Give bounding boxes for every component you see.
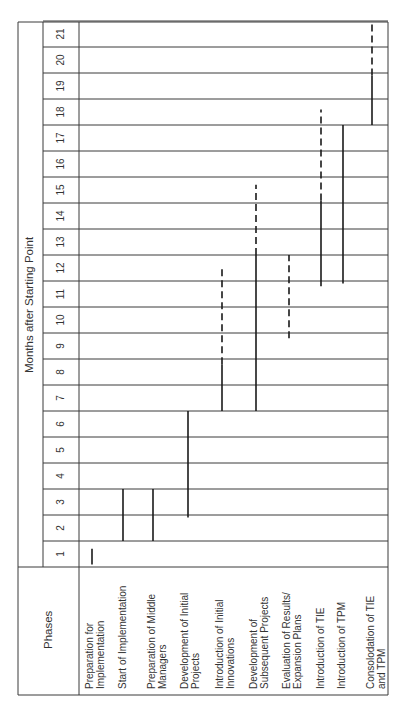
month-label: 20 — [55, 47, 66, 73]
month-label: 15 — [55, 177, 66, 203]
phase-label: Consolodation of TIE and TPM — [366, 596, 387, 689]
phase-label: Preparation of Middle Managers — [147, 594, 168, 689]
phase-label: Evaluation of Results/ Expansion Plans — [282, 592, 303, 689]
month-label: 17 — [55, 125, 66, 151]
month-label: 7 — [55, 385, 66, 411]
month-label: 2 — [55, 515, 66, 541]
month-label: 16 — [55, 151, 66, 177]
phase-label: Introduction of Initial Innovations — [215, 600, 236, 690]
month-label: 9 — [55, 333, 66, 359]
month-label: 18 — [55, 99, 66, 125]
gantt-chart: Months after Starting Point Phases 12345… — [0, 0, 406, 710]
month-label: 6 — [55, 411, 66, 437]
phase-label: Preparation for Implementation — [85, 621, 106, 689]
phase-label: Introduction of TIE — [316, 607, 327, 689]
month-label: 13 — [55, 229, 66, 255]
month-label: 5 — [55, 437, 66, 463]
month-label: 8 — [55, 359, 66, 385]
month-label: 21 — [55, 21, 66, 47]
month-label: 3 — [55, 489, 66, 515]
phases-column-header: Phases — [42, 611, 54, 649]
phase-label: Development of Initial Projects — [180, 593, 201, 689]
phase-label: Start of Implementation — [118, 586, 129, 689]
month-label: 19 — [55, 73, 66, 99]
month-label: 11 — [55, 281, 66, 307]
phase-label: Introduction of TPM — [337, 602, 348, 689]
month-label: 10 — [55, 307, 66, 333]
month-label: 14 — [55, 203, 66, 229]
month-label: 12 — [55, 255, 66, 281]
months-axis-title: Months after Starting Point — [23, 236, 35, 372]
month-label: 4 — [55, 463, 66, 489]
month-label: 1 — [55, 541, 66, 567]
phase-label: Development of Subsequent Projects — [249, 597, 270, 689]
